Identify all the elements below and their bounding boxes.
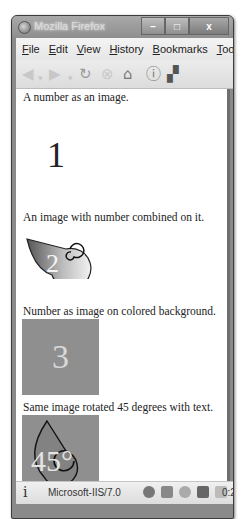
close-button[interactable]: x [189,17,229,35]
home-icon[interactable]: ⌂ [123,66,133,82]
stop-icon[interactable]: ⊗ [101,66,114,82]
browser-window: Mozilla Firefox – □ x File Edit View His… [11,15,234,519]
caption-number-image: A number as an image. [23,91,129,103]
number-image-1: 1 [47,134,65,176]
nautilus-icon: 2 [24,229,94,279]
addon-status-icon[interactable] [143,486,155,498]
forward-dropdown-icon[interactable]: ▾ [68,70,73,86]
menu-bar: File Edit View History Bookmarks Tools [16,38,233,60]
forward-icon[interactable]: ▶︎ [49,66,61,82]
addon-icon[interactable]: ▞ [167,66,179,82]
back-icon[interactable]: ◀︎ [22,66,34,82]
menu-bookmarks[interactable]: Bookmarks [153,43,208,55]
menu-file[interactable]: File [22,43,40,55]
firefox-icon [18,21,31,34]
network-status-icon[interactable] [197,486,209,498]
svg-text:2: 2 [46,249,59,278]
caption-colored-background: Number as image on colored background. [23,305,216,317]
title-bar[interactable]: Mozilla Firefox – □ x [12,16,233,38]
caption-rotated-image: Same image rotated 45 degrees with text. [23,401,213,413]
shell-image-2: 2 [24,229,94,281]
server-status: Microsoft-IIS/7.0 [48,487,121,498]
menu-view[interactable]: View [77,43,101,55]
page-content: A number as an image. 1 An image with nu… [16,89,230,481]
sync-status-icon[interactable] [179,486,191,498]
back-dropdown-icon[interactable]: ▾ [38,70,43,86]
info-icon[interactable]: ⓘ [146,66,161,82]
maximize-button[interactable]: □ [165,17,189,35]
svg-text:45°: 45° [31,444,73,477]
info-icon[interactable]: i [23,484,27,500]
number-3: 3 [52,338,69,376]
navigation-toolbar: ◀︎ ▾ ▶︎ ▾ ↻ ⊗ ⌂ ⓘ ▞ [16,60,233,89]
menu-history[interactable]: History [109,43,143,55]
page-status-icon[interactable] [161,486,173,498]
window-title: Mozilla Firefox [34,20,105,32]
rotated-nautilus-icon: 45° [22,415,99,491]
rotated-shell-tile: 45° [22,415,99,491]
minimize-button[interactable]: – [141,17,165,35]
reload-icon[interactable]: ↻ [79,66,92,82]
number-tile-3: 3 [22,319,99,395]
status-time: 0:25 [222,487,234,498]
status-bar: i Microsoft-IIS/7.0 0:25 [16,481,233,504]
menu-tools[interactable]: Tools [217,43,234,55]
menu-edit[interactable]: Edit [49,43,68,55]
caption-image-with-number: An image with number combined on it. [23,211,204,223]
